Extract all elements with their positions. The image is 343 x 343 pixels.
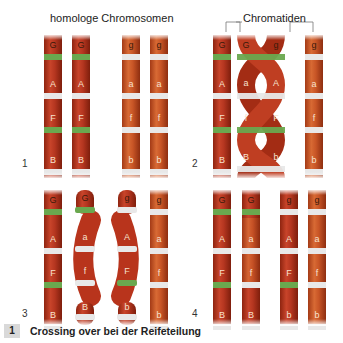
gene-label: g [314, 195, 319, 205]
gene-label: G [81, 193, 88, 203]
gene-label: F [286, 268, 292, 278]
gene-label: b [124, 302, 129, 312]
gene-label: B [82, 302, 88, 312]
gene-label: b [311, 155, 316, 165]
gene-label: A [219, 234, 225, 244]
panel2-crossed-chromatids: GgaAfFBb [236, 34, 286, 179]
caption-number: 1 [4, 324, 20, 338]
gene-label: B [248, 310, 254, 320]
gene-label: B [243, 152, 249, 162]
gene-label: a [248, 234, 253, 244]
gene-label: g [156, 40, 161, 50]
panel3-chromatid-2: GafB [74, 190, 96, 326]
gene-label: G [247, 195, 254, 205]
gene-label: b [156, 310, 161, 320]
gene-label: A [50, 79, 56, 89]
gene-label: G [242, 40, 249, 50]
gene-label: F [219, 113, 225, 123]
chromatids-label: Chromatiden [243, 12, 306, 24]
panel-number-4: 4 [192, 308, 198, 319]
chromosome-figure: GAFBGAFBgafbgafbGAFBgafbGgaAfFBbGAFBgafb… [0, 0, 343, 343]
panel2-chromatid-4: gafb [304, 34, 324, 179]
gene-label: F [78, 113, 84, 123]
gene-label: B [50, 310, 56, 320]
gene-label: b [156, 155, 161, 165]
gene-label: g [273, 40, 278, 50]
gene-label: b [128, 155, 133, 165]
gene-label: A [219, 79, 225, 89]
panel-number-1: 1 [22, 158, 28, 169]
gene-label: a [314, 234, 319, 244]
panel4-chromatid-2: GafB [241, 189, 261, 330]
panel-number-2: 2 [192, 158, 198, 169]
gene-label: g [311, 40, 316, 50]
homologous-chromosomes-label: homologe Chromosomen [50, 12, 174, 24]
figure-caption: 1 Crossing over bei der Reifeteilung [4, 323, 201, 339]
gene-label: a [128, 79, 133, 89]
gene-label: g [124, 193, 129, 203]
gene-label: B [78, 155, 84, 165]
panel1-chromatid-4: gafb [149, 34, 169, 179]
panel4-chromatid-3: gAFb [279, 189, 299, 330]
caption-text: Crossing over bei der Reifeteilung [30, 325, 201, 337]
gene-label: g [128, 40, 133, 50]
gene-label: b [286, 310, 291, 320]
gene-label: a [311, 79, 316, 89]
gene-label: F [219, 268, 225, 278]
gene-label: a [243, 78, 248, 88]
gene-label: b [314, 310, 319, 320]
panel-number-3: 3 [22, 308, 28, 319]
panel1-chromatid-3: gafb [121, 34, 141, 179]
gene-label: G [77, 40, 84, 50]
gene-label: B [219, 155, 225, 165]
panel3-chromatid-1: GAFB [43, 189, 63, 330]
gene-label: G [218, 195, 225, 205]
gene-label: g [156, 195, 161, 205]
panel1-chromatid-1: GAFB [43, 34, 63, 179]
panel1-chromatid-2: GAFB [71, 34, 91, 179]
gene-label: A [50, 234, 56, 244]
gene-label: b [273, 152, 278, 162]
gene-label: F [50, 268, 56, 278]
panel3-chromatid-4: gafb [149, 189, 169, 330]
gene-label: F [124, 266, 130, 276]
gene-label: B [219, 310, 225, 320]
panel3-chromatid-3: gAFb [116, 190, 138, 326]
gene-label: a [156, 234, 161, 244]
gene-label: a [156, 79, 161, 89]
panel4-chromatid-1: GAFB [212, 189, 232, 330]
gene-label: A [78, 79, 84, 89]
panel4-chromatid-4: gafb [307, 189, 327, 330]
gene-label: G [49, 195, 56, 205]
gene-label: g [286, 195, 291, 205]
gene-label: G [49, 40, 56, 50]
gene-label: A [286, 234, 292, 244]
gene-label: B [50, 155, 56, 165]
crossing-over-diagram: GAFBGAFBgafbgafbGAFBgafbGgaAfFBbGAFBgafb… [0, 0, 343, 343]
gene-label: A [124, 232, 130, 242]
panel2-chromatid-1: GAFB [212, 34, 232, 179]
gene-label: G [218, 40, 225, 50]
gene-label: F [50, 113, 56, 123]
gene-label: F [273, 113, 279, 123]
gene-label: A [273, 78, 279, 88]
gene-label: a [82, 232, 87, 242]
